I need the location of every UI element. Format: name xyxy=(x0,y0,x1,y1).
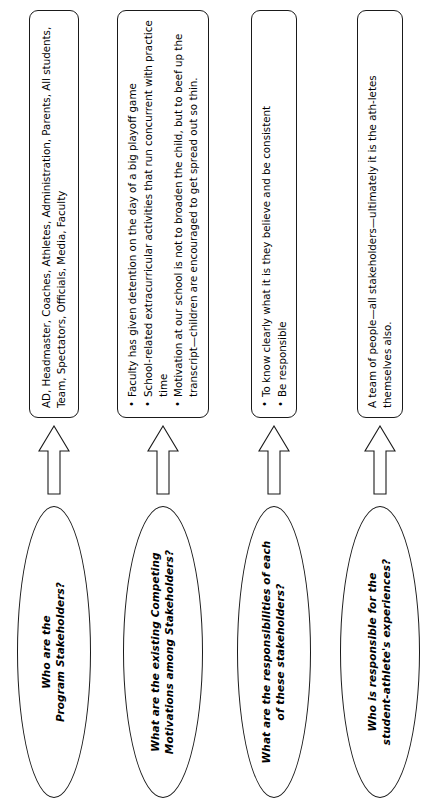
question-node-2[interactable]: What are the existing Competing Motivati… xyxy=(104,502,222,802)
oval-shape: Who is responsible for the student-athle… xyxy=(340,506,420,798)
answer-box-4[interactable]: A team of people—all stakeholders—ultima… xyxy=(330,0,430,418)
rotated-stage: Who are the Program Stakeholders? AD, He… xyxy=(0,0,442,802)
list-item: Motivation at our school is not to broad… xyxy=(171,20,200,397)
block-arrow-right-icon xyxy=(37,425,71,495)
question-label: What are the existing Competing Motivati… xyxy=(149,528,176,776)
box-shape: Faculty has given detention on the day o… xyxy=(117,10,208,418)
flow-row: What are the responsibilities of each of… xyxy=(228,0,320,802)
question-label: What are the responsibilities of each of… xyxy=(260,519,287,786)
answer-text: A team of people—all stakeholders—ultima… xyxy=(365,20,394,408)
oval-shape: Who are the Program Stakeholders? xyxy=(17,506,91,798)
connector-arrow-4 xyxy=(330,418,430,502)
answer-text: Faculty has given detention on the day o… xyxy=(125,20,200,408)
answer-text: AD, Headmaster, Coaches, Athletes, Admin… xyxy=(39,20,68,408)
answer-text: To know clearly what it is they believe … xyxy=(259,20,289,408)
connector-arrow-2 xyxy=(104,418,222,502)
answer-box-2[interactable]: Faculty has given detention on the day o… xyxy=(104,0,222,418)
answer-box-1[interactable]: AD, Headmaster, Coaches, Athletes, Admin… xyxy=(8,0,100,418)
block-arrow-right-icon xyxy=(257,425,291,495)
question-node-3[interactable]: What are the responsibilities of each of… xyxy=(228,502,320,802)
bullet-list: Faculty has given detention on the day o… xyxy=(125,20,200,408)
flow-row: Who are the Program Stakeholders? AD, He… xyxy=(8,0,100,802)
list-item: Faculty has given detention on the day o… xyxy=(125,20,140,397)
question-node-1[interactable]: Who are the Program Stakeholders? xyxy=(8,502,100,802)
box-shape: AD, Headmaster, Coaches, Athletes, Admin… xyxy=(29,10,79,418)
question-label: Who are the Program Stakeholders? xyxy=(40,560,67,744)
oval-shape: What are the responsibilities of each of… xyxy=(237,506,311,798)
bullet-list: To know clearly what it is they believe … xyxy=(259,20,289,408)
list-item: Be responsible xyxy=(275,20,290,397)
answer-box-3[interactable]: To know clearly what it is they believe … xyxy=(228,0,320,418)
flowchart-diagram: Who are the Program Stakeholders? AD, He… xyxy=(0,0,442,802)
list-item: To know clearly what it is they believe … xyxy=(259,20,274,397)
flow-row: What are the existing Competing Motivati… xyxy=(104,0,222,802)
list-item: School-related extracurricular activitie… xyxy=(141,20,170,397)
flow-row: Who is responsible for the student-athle… xyxy=(330,0,430,802)
block-arrow-right-icon xyxy=(363,425,397,495)
question-node-4[interactable]: Who is responsible for the student-athle… xyxy=(330,502,430,802)
connector-arrow-3 xyxy=(228,418,320,502)
question-label: Who is responsible for the student-athle… xyxy=(366,537,393,767)
box-shape: A team of people—all stakeholders—ultima… xyxy=(357,10,403,418)
oval-shape: What are the existing Competing Motivati… xyxy=(123,506,203,798)
connector-arrow-1 xyxy=(8,418,100,502)
block-arrow-right-icon xyxy=(146,425,180,495)
box-shape: To know clearly what it is they believe … xyxy=(251,10,297,418)
